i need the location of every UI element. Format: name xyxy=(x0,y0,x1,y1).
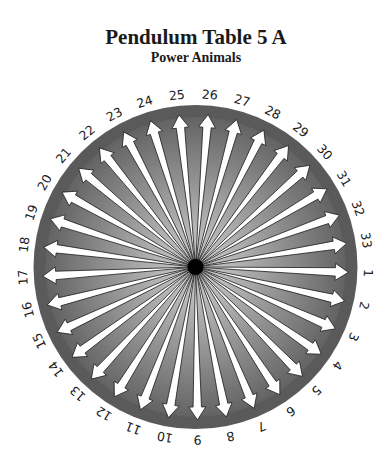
wheel-label: 19 xyxy=(22,203,41,223)
wheel-label: 12 xyxy=(93,403,114,424)
wheel-label: 9 xyxy=(194,432,202,447)
wheel-label: 13 xyxy=(67,383,89,405)
wheel-label: 5 xyxy=(308,383,324,399)
wheel-label: 16 xyxy=(19,300,37,319)
wheel-label: 28 xyxy=(262,102,283,123)
wheel-label: 18 xyxy=(15,236,32,254)
wheel-label: 3 xyxy=(345,330,362,343)
wheel-label: 10 xyxy=(156,428,174,446)
wheel-label: 15 xyxy=(29,330,49,351)
center-dot-icon xyxy=(188,259,204,275)
wheel-label: 11 xyxy=(123,419,143,439)
wheel-label: 27 xyxy=(232,91,251,110)
wheel-label: 2 xyxy=(356,300,372,311)
wheel-label: 31 xyxy=(334,168,355,189)
wheel-label: 6 xyxy=(283,403,298,420)
pendulum-wheel: 1234567891011121314151617181920212223242… xyxy=(0,0,392,471)
wheel-label: 4 xyxy=(329,358,346,373)
wheel-label: 1 xyxy=(361,269,376,277)
wheel-label: 23 xyxy=(104,104,125,125)
wheel-label: 30 xyxy=(314,141,336,163)
wheel-label: 8 xyxy=(225,428,236,444)
wheel-label: 33 xyxy=(358,231,375,249)
wheel-label: 32 xyxy=(348,198,368,218)
wheel-label: 26 xyxy=(201,86,218,102)
wheel-label: 14 xyxy=(45,358,67,380)
wheel-label: 17 xyxy=(15,269,31,286)
wheel-label: 20 xyxy=(34,172,55,193)
wheel-label: 7 xyxy=(255,418,268,435)
wheel-label: 29 xyxy=(290,119,312,141)
wheel-label: 24 xyxy=(135,92,155,111)
wheel-label: 25 xyxy=(168,87,185,104)
wheel-label: 21 xyxy=(52,144,74,166)
wheel-label: 22 xyxy=(76,122,98,144)
